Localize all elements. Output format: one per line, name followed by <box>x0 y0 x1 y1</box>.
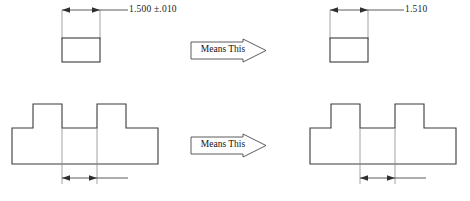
part-outline-stepped <box>310 104 456 164</box>
arrowhead-right <box>360 7 368 13</box>
means-this-arrow-bottom: Means This <box>190 133 270 163</box>
figure-top-right: 1.510 <box>300 0 470 80</box>
drawing-sheet: 1.500 ±.010 Means This 1.510 <box>0 0 470 201</box>
figure-bottom-left: 1.521 ±.010 <box>0 96 200 201</box>
part-outline-rectangle <box>62 38 100 62</box>
arrowhead-right <box>92 7 100 13</box>
bottom-left-drawing <box>0 96 200 201</box>
top-right-drawing <box>300 0 470 80</box>
means-this-arrow-top: Means This <box>190 38 270 68</box>
arrowhead-left <box>330 7 338 13</box>
arrowhead-right <box>89 175 97 181</box>
means-this-label-top: Means This <box>195 44 251 55</box>
means-this-label-bottom: Means This <box>195 139 251 150</box>
part-outline-stepped <box>12 104 158 164</box>
part-outline-rectangle <box>330 38 368 62</box>
arrowhead-left <box>62 175 70 181</box>
figure-bottom-right: 1.511 <box>300 96 470 201</box>
dimension-text-top-left: 1.500 ±.010 <box>129 4 177 14</box>
bottom-right-drawing <box>300 96 470 201</box>
arrowhead-left <box>62 7 70 13</box>
figure-top-left: 1.500 ±.010 <box>0 0 200 80</box>
dimension-text-top-right: 1.510 <box>405 4 427 14</box>
arrowhead-right <box>387 175 395 181</box>
arrowhead-left <box>360 175 368 181</box>
